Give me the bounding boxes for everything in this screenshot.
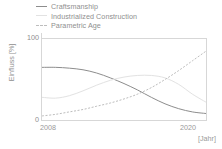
faint-line-icon (36, 15, 47, 17)
series-line-craftsmanship (42, 67, 206, 113)
legend-item-parametric-age: Parametric Age (36, 21, 216, 31)
dashed-line-icon (36, 25, 47, 27)
x-axis-tick-2020: 2020 (180, 123, 196, 132)
influence-over-time-chart: Craftsmanship Industrialized Constructio… (0, 0, 222, 149)
legend-label: Parametric Age (51, 21, 101, 31)
series-canvas (42, 39, 206, 120)
y-axis-tick-0: 0 (28, 115, 39, 124)
chart-legend: Craftsmanship Industrialized Constructio… (36, 2, 216, 31)
legend-label: Craftsmanship (51, 2, 98, 12)
legend-label: Industrialized Construction (51, 12, 137, 22)
y-axis-tick-100: 100 (23, 33, 39, 42)
legend-item-craftsmanship: Craftsmanship (36, 2, 216, 12)
legend-item-industrialized-construction: Industrialized Construction (36, 12, 216, 22)
series-line-industrialized-construction (42, 75, 206, 102)
solid-line-icon (36, 6, 47, 8)
plot-area (41, 38, 207, 121)
x-axis-unit-label: [Jahr] (198, 134, 216, 143)
y-axis-label: Einfluss [%] (7, 35, 16, 91)
x-axis-tick-2008: 2008 (40, 123, 56, 132)
